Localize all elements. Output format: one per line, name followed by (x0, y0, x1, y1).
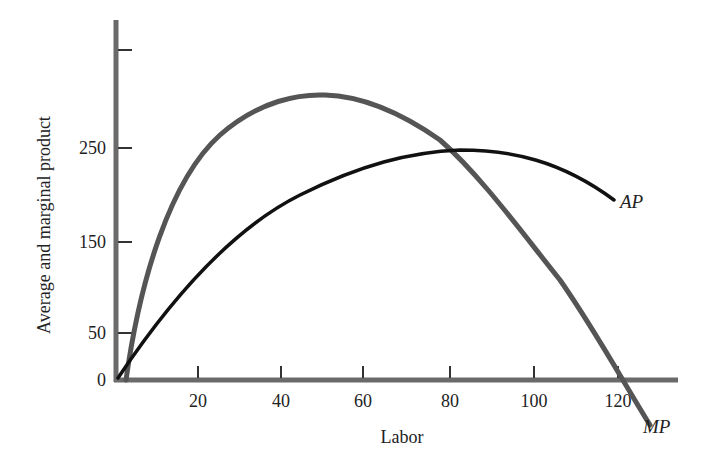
ap-curve (118, 150, 614, 378)
y-ticks (118, 50, 132, 333)
y-tick-label-50: 50 (88, 323, 106, 343)
x-ticks (198, 366, 618, 378)
x-tick-label-20: 20 (189, 391, 207, 411)
x-tick-label-100: 100 (521, 391, 548, 411)
x-tick-label-80: 80 (441, 391, 459, 411)
x-tick-label-60: 60 (354, 391, 372, 411)
x-tick-label-120: 120 (605, 391, 632, 411)
x-axis-title: Labor (381, 427, 424, 447)
y-tick-label-150: 150 (79, 232, 106, 252)
x-tick-label-40: 40 (272, 391, 290, 411)
y-tick-label-250: 250 (79, 138, 106, 158)
mp-curve (126, 95, 650, 425)
chart-canvas: 250 150 50 0 20 40 60 80 100 120 Labor A… (0, 0, 712, 470)
mp-label: MP (642, 416, 671, 437)
ap-label: AP (618, 191, 644, 212)
y-tick-label-0: 0 (97, 370, 106, 390)
y-axis-title: Average and marginal product (34, 116, 54, 334)
